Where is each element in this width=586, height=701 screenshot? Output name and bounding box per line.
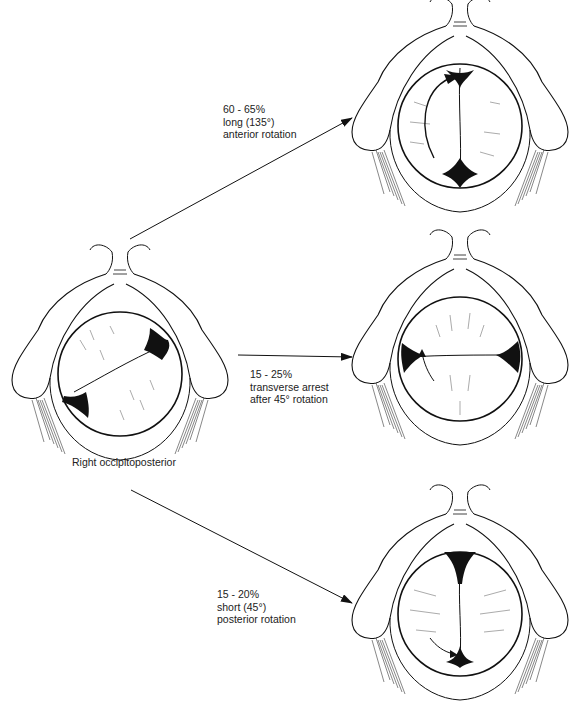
transverse-type: transverse arrest — [250, 381, 329, 394]
label-posterior: 15 - 20% short (45°) posterior rotation — [217, 588, 296, 626]
transverse-description: after 45° rotation — [250, 393, 329, 406]
posterior-type: short (45°) — [217, 601, 296, 614]
pelvis-diagram-transverse — [352, 230, 568, 445]
anterior-percent: 60 - 65% — [223, 103, 297, 116]
diagram-canvas: 60 - 65% long (135°) anterior rotation 1… — [0, 0, 586, 701]
arrow-to-posterior — [131, 490, 352, 603]
arrow-to-transverse — [238, 355, 352, 357]
label-anterior: 60 - 65% long (135°) anterior rotation — [223, 103, 297, 141]
label-transverse: 15 - 25% transverse arrest after 45° rot… — [250, 368, 329, 406]
pelvis-diagram-anterior — [352, 0, 568, 212]
transverse-percent: 15 - 25% — [250, 368, 329, 381]
posterior-description: posterior rotation — [217, 613, 296, 626]
source-position-label: Right occipitoposterior — [72, 456, 176, 468]
pelvis-diagram-posterior — [352, 485, 568, 700]
pelvis-diagram-rop — [12, 245, 228, 460]
anterior-type: long (135°) — [223, 116, 297, 129]
posterior-percent: 15 - 20% — [217, 588, 296, 601]
anterior-description: anterior rotation — [223, 128, 297, 141]
